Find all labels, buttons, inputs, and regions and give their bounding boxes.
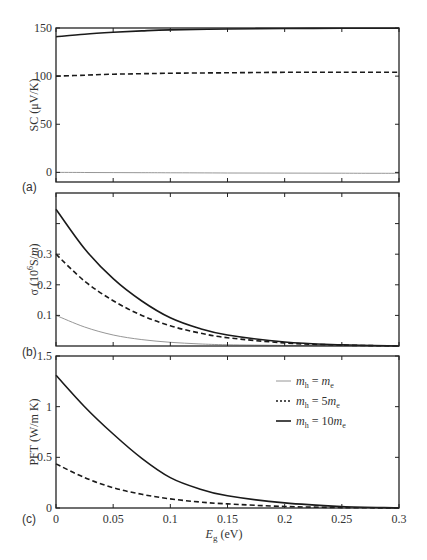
- plot-frame: [56, 193, 399, 346]
- legend-label: mh = 10me: [296, 414, 346, 430]
- legend-label: mh = me: [296, 374, 334, 390]
- x-tick-label: 0: [53, 512, 59, 526]
- x-tick-label: 0.05: [103, 512, 124, 526]
- series-line: [56, 72, 399, 76]
- panel-a: 050100150SC (μV/K)(a): [22, 21, 399, 194]
- x-axis-label: Eg (eV): [205, 527, 243, 543]
- series-line: [56, 254, 399, 346]
- y-tick-label: 0.1: [37, 308, 52, 322]
- x-tick-label: 0.1: [163, 512, 178, 526]
- x-tick-label: 0.3: [392, 512, 407, 526]
- y-tick-label: 50: [40, 117, 52, 131]
- y-axis-label: σ (106S/m): [26, 243, 41, 295]
- panel-label: (c): [22, 512, 36, 526]
- y-axis-label: PFT (W/m K): [27, 398, 41, 465]
- x-tick-label: 0.25: [331, 512, 352, 526]
- y-tick-label: 1: [46, 400, 52, 414]
- plot-frame: [56, 28, 399, 182]
- y-tick-label: 150: [34, 21, 52, 35]
- y-axis-label: SC (μV/K): [27, 79, 41, 132]
- panels: 050100150SC (μV/K)(a)0.10.20.3σ (106S/m)…: [22, 21, 399, 526]
- y-tick-label: 0: [46, 501, 52, 515]
- x-tick-label: 0.2: [277, 512, 292, 526]
- figure: 050100150SC (μV/K)(a)0.10.20.3σ (106S/m)…: [0, 0, 427, 560]
- legend-label: mh = 5me: [296, 394, 340, 410]
- panel-b: 0.10.20.3σ (106S/m)(b): [22, 193, 399, 359]
- plot-frame: [56, 356, 399, 508]
- y-tick-label: 1.5: [37, 349, 52, 363]
- panel-label: (a): [22, 180, 37, 194]
- x-tick-label: 0.15: [217, 512, 238, 526]
- series-line: [56, 375, 399, 508]
- y-tick-label: 0: [46, 165, 52, 179]
- series-line: [56, 315, 399, 346]
- panel-c: 00.511.5PFT (W/m K)(c): [22, 349, 399, 526]
- panel-label: (b): [22, 345, 37, 359]
- x-tick-labels: 00.050.10.150.20.250.3: [53, 512, 407, 526]
- series-line: [56, 464, 399, 508]
- series-line: [56, 172, 399, 173]
- series-line: [56, 209, 399, 346]
- legend: mh = memh = 5memh = 10me: [276, 374, 346, 430]
